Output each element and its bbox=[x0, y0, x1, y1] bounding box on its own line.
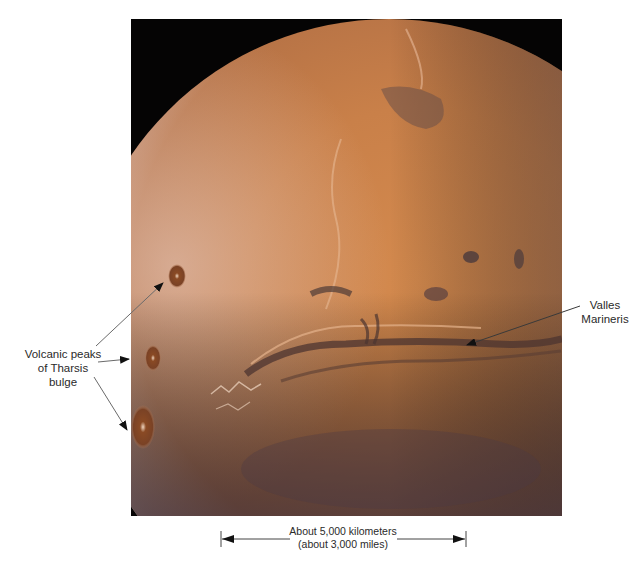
volcanic-peaks-line-3: bulge bbox=[18, 375, 108, 389]
valles-marineris-line-2: Marineris bbox=[572, 312, 638, 326]
scale-km: About 5,000 kilometers bbox=[286, 525, 399, 538]
mars-photograph bbox=[131, 19, 562, 516]
scale-bar-label: About 5,000 kilometers (about 3,000 mile… bbox=[243, 525, 443, 551]
scale-arrow-right-icon bbox=[453, 535, 465, 543]
valles-marineris-line-1: Valles bbox=[572, 298, 638, 312]
mars-globe-illustration bbox=[131, 19, 562, 516]
scale-arrow-left-icon bbox=[222, 535, 234, 543]
volcanic-peaks-line-2: of Tharsis bbox=[18, 361, 108, 375]
volcanic-peaks-line-1: Volcanic peaks bbox=[18, 347, 108, 361]
valles-marineris-label: Valles Marineris bbox=[572, 298, 638, 326]
volcanic-peaks-label: Volcanic peaks of Tharsis bulge bbox=[18, 347, 108, 389]
scale-miles: (about 3,000 miles) bbox=[243, 538, 443, 551]
